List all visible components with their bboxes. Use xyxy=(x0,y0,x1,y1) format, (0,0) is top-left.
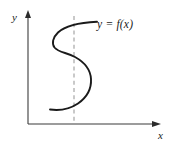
function-label: y = f(x) xyxy=(97,19,133,31)
graph-canvas xyxy=(0,0,173,146)
y-axis-label: y xyxy=(12,12,17,23)
x-axis-label: x xyxy=(158,130,163,141)
y-axis-arrowhead xyxy=(25,10,31,18)
function-graph-figure: y x y = f(x) xyxy=(0,0,173,146)
x-axis-arrowhead xyxy=(152,121,161,127)
